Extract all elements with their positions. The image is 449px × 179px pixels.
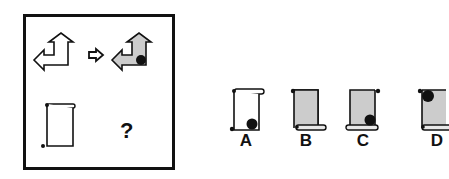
option-a-label[interactable]: A — [234, 131, 258, 151]
option-c-scroll-icon[interactable] — [345, 88, 389, 134]
option-b-label[interactable]: B — [294, 131, 318, 151]
option-b-scroll-icon[interactable] — [288, 88, 332, 134]
arrow-target-icon — [110, 32, 162, 72]
scroll-query-icon — [40, 100, 80, 148]
option-c-label[interactable]: C — [351, 131, 375, 151]
transform-arrow-icon — [88, 49, 104, 61]
unknown-mark: ? — [120, 118, 133, 144]
arrow-source-icon — [32, 32, 82, 72]
option-d-scroll-icon[interactable] — [416, 88, 446, 134]
option-a-scroll-icon[interactable] — [230, 88, 270, 134]
option-d-label[interactable]: D — [425, 131, 449, 151]
